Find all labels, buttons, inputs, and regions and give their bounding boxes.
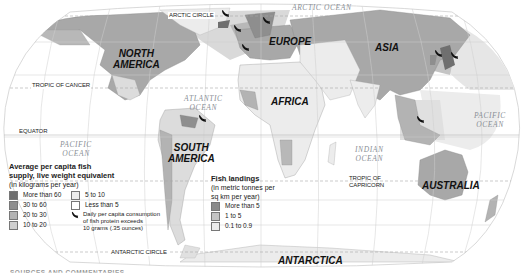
legend-column-2: 5 to 10 Less than 5 Daily per capita con… [71, 190, 176, 232]
label-asia: ASIA [375, 42, 399, 53]
fish-icon [71, 211, 79, 219]
label-line: Daily per capita consumption [83, 211, 160, 218]
label-line: OCEAN [474, 120, 506, 129]
label-equator: EQUATOR [19, 128, 47, 135]
legend-item: Less than 5 [71, 200, 176, 210]
swatch [71, 201, 80, 210]
label-arctic-circle: ARCTIC CIRCLE [168, 12, 215, 19]
label-line: AMERICA [113, 59, 160, 70]
legend-title: Fish landings [211, 174, 291, 183]
swatch [71, 191, 80, 200]
legend-fish-supply: Average per capita fish supply, live wei… [9, 162, 179, 232]
label-australia: AUSTRALIA [422, 180, 480, 191]
label-arctic-ocean: ARCTIC OCEAN [292, 3, 352, 12]
legend-column-1: More than 60 30 to 60 20 to 30 10 to 20 [9, 190, 71, 232]
legend-item-label: 10 to 20 [23, 221, 47, 229]
label-europe: EUROPE [269, 36, 311, 47]
label-pacific-ocean-east: PACIFIC OCEAN [474, 111, 506, 129]
legend-subtitle-line1: (in metric tonnes per [211, 183, 291, 192]
swatch [211, 212, 220, 221]
label-line: OCEAN [60, 149, 92, 158]
label-line: TROPIC OF [349, 175, 384, 182]
legend-subtitle: (in kilograms per year) [9, 180, 179, 189]
legend-item-label: 20 to 30 [23, 211, 47, 219]
label-atlantic-ocean: ATLANTIC OCEAN [184, 94, 223, 112]
label-tropic-of-cancer: TROPIC OF CANCER [31, 82, 91, 89]
legend-item: 1 to 5 [211, 211, 291, 221]
legend-item-label: 5 to 10 [85, 191, 105, 199]
legend-item-label: 0.1 to 0.9 [225, 222, 252, 230]
label-line: OCEAN [355, 154, 384, 163]
legend-item: 0.1 to 0.9 [211, 221, 291, 231]
legend-subtitle-line2: sq km per year) [211, 192, 291, 201]
label-africa: AFRICA [271, 96, 309, 107]
label-line: PACIFIC [474, 111, 506, 120]
legend-fish-text: Daily per capita consumption of fish pro… [83, 211, 160, 232]
swatch [211, 222, 220, 231]
label-line: CAPRICORN [349, 182, 384, 189]
label-tropic-of-capricorn: TROPIC OF CAPRICORN [349, 175, 384, 189]
label-line: of fish protein exceeds [83, 218, 160, 225]
legend-item-label: 30 to 60 [23, 201, 47, 209]
legend-item-label: More than 5 [225, 202, 260, 210]
swatch [9, 221, 18, 230]
label-indian-ocean: INDIAN OCEAN [355, 145, 384, 163]
legend-item: More than 5 [211, 201, 291, 211]
world-map [0, 0, 522, 276]
label-line: INDIAN [355, 145, 384, 154]
label-line: NORTH [113, 48, 160, 59]
swatch [9, 201, 18, 210]
legend-fish-landings: Fish landings (in metric tonnes per sq k… [211, 174, 291, 231]
legend-item: 10 to 20 [9, 220, 71, 230]
legend-title-line1: Average per capita fish [9, 162, 179, 171]
legend-item: More than 60 [9, 190, 71, 200]
label-line: ATLANTIC [184, 94, 223, 103]
legend-fish-icon-item: Daily per capita consumption of fish pro… [71, 211, 176, 232]
legend-item: 30 to 60 [9, 200, 71, 210]
swatch [211, 202, 220, 211]
swatch [9, 211, 18, 220]
label-antarctic-circle: ANTARCTIC CIRCLE [110, 249, 168, 256]
label-line: 10 grams (.35 ounces) [83, 225, 160, 232]
label-pacific-ocean-west: PACIFIC OCEAN [60, 140, 92, 158]
label-line: PACIFIC [60, 140, 92, 149]
swatch [9, 191, 18, 200]
label-antarctica: ANTARCTICA [278, 255, 343, 266]
label-south-america: SOUTH AMERICA [168, 142, 215, 164]
legend-item: 5 to 10 [71, 190, 176, 200]
legend-item: 20 to 30 [9, 210, 71, 220]
label-line: OCEAN [184, 103, 223, 112]
label-line: SOUTH [168, 142, 215, 153]
legend-title-line2: supply, live weight equivalent [9, 171, 179, 180]
legend-item-label: More than 60 [23, 191, 61, 199]
legend-item-label: 1 to 5 [225, 212, 241, 220]
legend-item-label: Less than 5 [85, 201, 119, 209]
label-north-america: NORTH AMERICA [113, 48, 160, 70]
landmass-namibia [280, 140, 292, 165]
